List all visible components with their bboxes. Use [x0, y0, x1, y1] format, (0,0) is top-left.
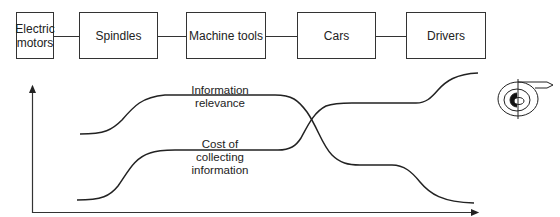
label-cost-line2: collecting [180, 151, 260, 164]
label-information-relevance-line2: relevance [180, 97, 260, 110]
label-information-relevance-line1: Information [180, 84, 260, 97]
label-information-relevance: Information relevance [180, 84, 260, 110]
curve-information-relevance [80, 95, 474, 203]
label-cost-line1: Cost of [180, 138, 260, 151]
label-cost-line3: information [180, 164, 260, 177]
spiral-target-icon [495, 74, 555, 124]
label-cost-of-collecting-information: Cost of collecting information [180, 138, 260, 177]
graph-canvas [0, 0, 560, 217]
curve-cost-of-collecting-information [77, 73, 478, 200]
